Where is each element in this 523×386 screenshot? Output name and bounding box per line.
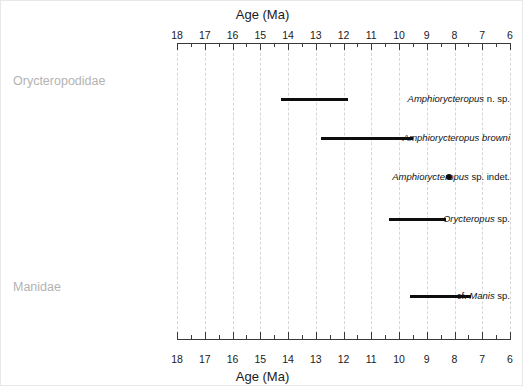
axis-bottom-line — [177, 339, 511, 340]
axis-tick-label: 15 — [245, 29, 275, 41]
axis-tick-major — [205, 332, 206, 339]
gridline — [177, 43, 178, 339]
figure-panel: Age (Ma) 1817161514131211109876 18171615… — [0, 0, 523, 386]
axis-tick-label: 17 — [190, 353, 220, 365]
axis-tick-minor — [441, 335, 442, 339]
axis-tick-major — [455, 43, 456, 50]
axis-tick-major — [344, 332, 345, 339]
axis-tick-major — [399, 332, 400, 339]
axis-tick-major — [260, 332, 261, 339]
gridline — [205, 43, 206, 339]
axis-tick-minor — [191, 335, 192, 339]
axis-tick-minor — [357, 335, 358, 339]
axis-tick-label: 18 — [162, 353, 192, 365]
axis-tick-label: 13 — [301, 29, 331, 41]
axis-tick-label: 12 — [329, 353, 359, 365]
axis-tick-minor — [191, 43, 192, 47]
axis-tick-label: 17 — [190, 29, 220, 41]
axis-tick-minor — [357, 43, 358, 47]
axis-tick-major — [260, 43, 261, 50]
axis-tick-label: 14 — [273, 353, 303, 365]
axis-tick-label: 10 — [384, 29, 414, 41]
range-bar — [389, 218, 446, 221]
axis-tick-major — [177, 43, 178, 50]
axis-tick-label: 7 — [467, 29, 497, 41]
axis-tick-label: 16 — [218, 353, 248, 365]
axis-tick-major — [455, 332, 456, 339]
axis-title-top: Age (Ma) — [1, 7, 523, 22]
axis-tick-major — [371, 332, 372, 339]
axis-title-bottom: Age (Ma) — [1, 369, 523, 384]
axis-tick-major — [288, 43, 289, 50]
axis-tick-major — [233, 43, 234, 50]
axis-tick-minor — [385, 335, 386, 339]
axis-tick-label: 14 — [273, 29, 303, 41]
range-bar — [281, 98, 348, 101]
axis-tick-minor — [219, 43, 220, 47]
gridline — [288, 43, 289, 339]
axis-tick-label: 15 — [245, 353, 275, 365]
gridline — [316, 43, 317, 339]
axis-tick-major — [371, 43, 372, 50]
axis-tick-minor — [441, 43, 442, 47]
axis-tick-minor — [496, 335, 497, 339]
range-point-marker — [446, 174, 452, 180]
axis-tick-minor — [302, 335, 303, 339]
axis-tick-label: 18 — [162, 29, 192, 41]
axis-tick-minor — [413, 43, 414, 47]
axis-tick-major — [427, 43, 428, 50]
axis-tick-major — [427, 332, 428, 339]
axis-tick-major — [510, 332, 511, 339]
axis-tick-minor — [330, 335, 331, 339]
axis-tick-major — [399, 43, 400, 50]
axis-tick-label: 11 — [356, 353, 386, 365]
axis-tick-label: 13 — [301, 353, 331, 365]
axis-tick-label: 10 — [384, 353, 414, 365]
axis-tick-major — [344, 43, 345, 50]
axis-tick-label: 12 — [329, 29, 359, 41]
range-bar — [321, 137, 413, 140]
axis-tick-label: 8 — [440, 353, 470, 365]
axis-tick-label: 8 — [440, 29, 470, 41]
gridline — [233, 43, 234, 339]
taxon-label: Amphiorycteropus n. sp. — [346, 93, 522, 105]
axis-tick-major — [510, 43, 511, 50]
axis-tick-minor — [468, 43, 469, 47]
axis-tick-major — [205, 43, 206, 50]
axis-tick-minor — [330, 43, 331, 47]
axis-tick-minor — [496, 43, 497, 47]
axis-tick-minor — [385, 43, 386, 47]
axis-tick-minor — [413, 335, 414, 339]
taxon-label: Amphiorycteropus sp. indet. — [346, 171, 522, 183]
axis-tick-major — [316, 332, 317, 339]
gridline — [344, 43, 345, 339]
axis-tick-major — [177, 332, 178, 339]
axis-tick-label: 6 — [495, 353, 523, 365]
axis-tick-minor — [274, 43, 275, 47]
axis-tick-label: 7 — [467, 353, 497, 365]
axis-tick-major — [482, 43, 483, 50]
axis-tick-minor — [302, 43, 303, 47]
gridline — [260, 43, 261, 339]
family-header: Manidae — [13, 280, 61, 294]
axis-tick-label: 6 — [495, 29, 523, 41]
axis-tick-major — [482, 332, 483, 339]
range-bar — [410, 295, 471, 298]
axis-tick-major — [288, 332, 289, 339]
family-header: Orycteropodidae — [13, 74, 105, 88]
axis-tick-label: 11 — [356, 29, 386, 41]
axis-tick-label: 9 — [412, 353, 442, 365]
axis-tick-minor — [246, 335, 247, 339]
axis-tick-major — [233, 332, 234, 339]
axis-tick-minor — [219, 335, 220, 339]
axis-tick-label: 9 — [412, 29, 442, 41]
axis-tick-major — [316, 43, 317, 50]
axis-tick-label: 16 — [218, 29, 248, 41]
axis-tick-minor — [246, 43, 247, 47]
axis-tick-minor — [468, 335, 469, 339]
axis-tick-minor — [274, 335, 275, 339]
